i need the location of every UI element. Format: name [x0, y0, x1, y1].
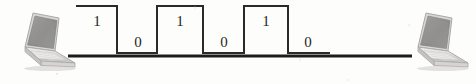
signal-transmission-diagram: 101010: [0, 0, 476, 84]
bit-label-0-1: 0: [131, 35, 145, 50]
right-laptop: [402, 10, 474, 72]
bit-label-1-2: 1: [173, 14, 187, 29]
bit-label-0-3: 0: [217, 35, 231, 50]
bit-label-1-4: 1: [259, 14, 273, 29]
bit-label-1-0: 1: [90, 14, 104, 29]
left-laptop: [12, 10, 86, 72]
bit-label-0-5: 0: [301, 35, 315, 50]
digital-signal-waveform: [76, 6, 330, 53]
